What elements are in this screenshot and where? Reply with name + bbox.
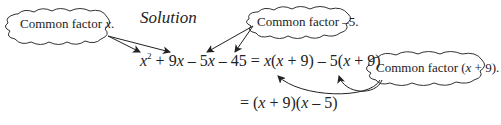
eq-term: – 5) <box>308 94 337 111</box>
eq-term: – 5 <box>184 52 208 69</box>
eq-term: + 9) <box>350 52 380 69</box>
eq-term: x <box>177 52 184 69</box>
callout-x-prefix: Common factor <box>20 16 105 31</box>
callout-xplus9-prefix: Common factor ( <box>376 60 466 75</box>
equation-line-1: x2 + 9x – 5x – 45 = x(x + 9) – 5(x + 9) <box>140 51 381 70</box>
eq-term: + 9 <box>152 52 177 69</box>
callout-common-factor-x: Common factor x. <box>20 16 114 32</box>
callout-common-factor-xplus9: Common factor (x + 9). <box>376 60 499 76</box>
solution-title: Solution <box>140 8 197 28</box>
callout-common-factor-neg5: Common factor –5. <box>257 14 358 30</box>
eq-term: + 9)( <box>265 94 301 111</box>
eq-term: x <box>264 52 271 69</box>
callout-neg5-text: Common factor –5. <box>257 14 358 29</box>
equation-line-2: = (x + 9)(x – 5) <box>240 94 338 112</box>
callout-x-suffix: . <box>111 16 114 31</box>
eq-term: = ( <box>240 94 258 111</box>
eq-term: + 9) – 5( <box>283 52 343 69</box>
eq-term: x <box>208 52 215 69</box>
eq-term: – 45 = <box>215 52 264 69</box>
callout-xplus9-suffix: + 9). <box>471 60 499 75</box>
